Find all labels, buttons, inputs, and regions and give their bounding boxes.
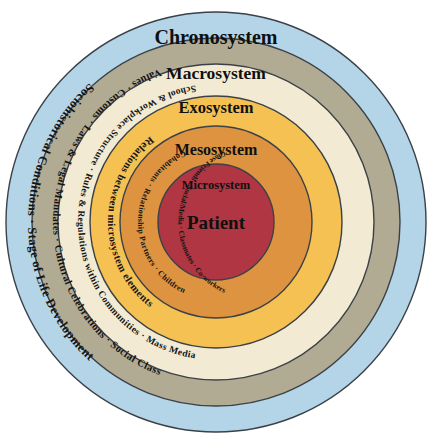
ring-label-macrosystem: Macrosystem [166, 63, 266, 83]
ring-label-exosystem: Exosystem [178, 98, 253, 117]
ring-label-chronosystem: Chronosystem [155, 26, 278, 49]
ecological-systems-diagram: Sociohistorical Conditions · Stage of Li… [0, 0, 433, 444]
ring-label-patient: Patient [187, 212, 246, 233]
ring-label-microsystem: Microsystem [182, 178, 251, 192]
ring-label-mesosystem: Mesosystem [175, 141, 258, 159]
ecological-systems-svg: Sociohistorical Conditions · Stage of Li… [0, 0, 433, 444]
